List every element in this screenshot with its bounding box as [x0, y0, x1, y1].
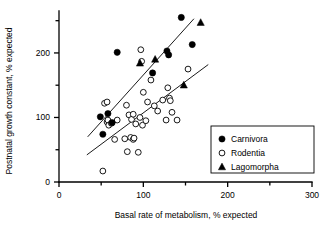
- legend-marker-carnivora: [219, 136, 225, 142]
- data-point-rodentia: [135, 149, 141, 155]
- data-point-carnivora: [150, 70, 156, 76]
- data-point-rodentia: [130, 111, 136, 117]
- data-point-carnivora: [109, 120, 115, 126]
- y-tick-label: 0: [45, 177, 50, 187]
- data-point-rodentia: [145, 99, 151, 105]
- data-point-carnivora: [114, 49, 120, 55]
- data-point-rodentia: [104, 99, 110, 105]
- x-axis-title: Basal rate of metabolism, % expected: [115, 210, 258, 220]
- x-tick-label: 100: [136, 190, 150, 200]
- data-point-rodentia: [137, 115, 143, 121]
- series-points-rodentia: [100, 47, 191, 174]
- data-point-rodentia: [138, 47, 144, 53]
- legend-marker-rodentia: [219, 150, 225, 156]
- plot-canvas: 0100200300 0100200 Basal rate of metabol…: [0, 0, 333, 236]
- data-point-rodentia: [122, 136, 128, 142]
- data-point-rodentia: [133, 121, 139, 127]
- data-point-lagomorpha: [197, 19, 204, 26]
- data-point-rodentia: [167, 98, 173, 104]
- data-point-rodentia: [124, 102, 130, 108]
- chart-legend: CarnivoraRodentiaLagomorpha: [211, 126, 314, 173]
- x-tick-label: 0: [57, 190, 62, 200]
- data-point-rodentia: [112, 137, 118, 143]
- data-point-rodentia: [100, 168, 106, 174]
- data-point-carnivora: [178, 14, 184, 20]
- y-axis-ticks: [54, 21, 59, 182]
- data-point-carnivora: [100, 131, 106, 137]
- scatter-chart-figure: 0100200300 0100200 Basal rate of metabol…: [0, 0, 333, 236]
- data-point-rodentia: [165, 85, 171, 91]
- y-tick-label: 200: [36, 48, 50, 58]
- x-axis-ticks: [59, 182, 312, 187]
- data-point-rodentia: [148, 77, 154, 83]
- data-point-carnivora: [97, 114, 103, 120]
- data-point-rodentia: [160, 97, 166, 103]
- data-point-rodentia: [124, 149, 130, 155]
- y-axis-title: Postnatal growth constant, % expected: [4, 27, 14, 174]
- data-point-rodentia: [185, 66, 191, 72]
- data-point-rodentia: [143, 118, 149, 124]
- data-point-rodentia: [140, 89, 146, 95]
- y-axis-tick-labels: 0100200: [36, 48, 50, 187]
- data-point-rodentia: [131, 135, 137, 141]
- x-tick-label: 300: [305, 190, 319, 200]
- data-point-carnivora: [189, 41, 195, 47]
- data-point-rodentia: [163, 117, 169, 123]
- data-point-carnivora: [166, 52, 172, 58]
- data-point-rodentia: [155, 108, 161, 114]
- legend-label-rodentia: Rodentia: [231, 148, 265, 158]
- y-tick-label: 100: [36, 112, 50, 122]
- data-point-rodentia: [169, 109, 175, 115]
- data-point-rodentia: [151, 103, 157, 109]
- x-tick-label: 200: [221, 190, 235, 200]
- x-axis-tick-labels: 0100200300: [57, 190, 320, 200]
- data-point-carnivora: [105, 111, 111, 117]
- legend-label-lagomorpha: Lagomorpha: [231, 162, 279, 172]
- legend-label-carnivora: Carnivora: [231, 134, 268, 144]
- fit-line-lower-fit: [87, 65, 208, 155]
- data-point-rodentia: [174, 117, 180, 123]
